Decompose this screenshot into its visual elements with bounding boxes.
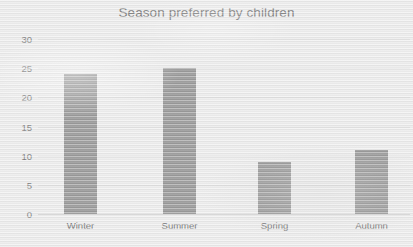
gridline [38, 68, 410, 69]
y-tick-label: 10 [6, 150, 32, 161]
y-tick-label: 0 [6, 209, 32, 220]
x-tick-label-summer: Summer [132, 220, 228, 231]
x-tick-label-winter: Winter [33, 220, 129, 231]
y-tick-label: 5 [6, 179, 32, 190]
gridline [38, 39, 410, 40]
axis-baseline [38, 214, 410, 215]
x-tick-label-spring: Spring [227, 220, 323, 231]
x-tick-label-autumn: Autumn [324, 220, 413, 231]
y-tick-label: 15 [6, 121, 32, 132]
y-tick-label: 20 [6, 92, 32, 103]
y-tick-label: 25 [6, 63, 32, 74]
bar-spring [258, 162, 291, 215]
bar-autumn [355, 150, 388, 214]
chart-title: Season preferred by children [0, 5, 413, 20]
plot-area [38, 39, 410, 214]
bar-chart-figure: Season preferred by children 05101520253… [0, 0, 413, 247]
bar-winter [64, 74, 97, 214]
y-tick-label: 30 [6, 34, 32, 45]
bar-summer [163, 68, 196, 214]
